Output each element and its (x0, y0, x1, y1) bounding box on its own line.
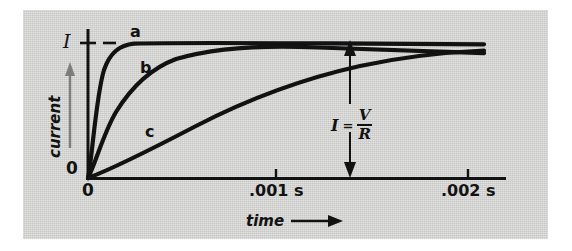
plot-area (0, 0, 572, 251)
x-tick-label-002: .002 s (441, 183, 496, 199)
x-tick-label-001: .001 s (249, 183, 304, 199)
equation-symbol-I: I (331, 116, 338, 135)
time-direction-arrow-icon (291, 215, 343, 227)
figure-rl-current-growth: I 0 0 current time .001 s .002 s a b c I… (0, 0, 572, 251)
y-axis-label-I: I (63, 32, 71, 51)
equation-fraction: V R (357, 108, 371, 143)
curve-label-c: c (145, 124, 154, 140)
curve-label-b: b (140, 60, 151, 76)
x-axis-title: time (246, 214, 284, 229)
equation-numerator-V: V (358, 108, 372, 123)
origin-label-y: 0 (66, 160, 78, 177)
current-direction-arrow-icon (65, 62, 75, 148)
x-tick-text-002: .002 s (441, 181, 496, 200)
x-tick-text-001: .001 s (249, 181, 304, 200)
saturation-equation: I = V R (331, 108, 372, 143)
origin-label-x: 0 (82, 182, 94, 199)
equation-equals-sign: = (342, 118, 353, 133)
y-axis-title: current (48, 96, 63, 158)
curve-label-a: a (130, 24, 141, 40)
equation-denominator-R: R (357, 127, 371, 142)
